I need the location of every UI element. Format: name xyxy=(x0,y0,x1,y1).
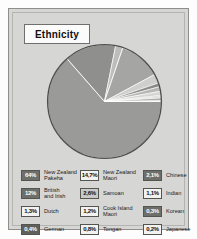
legend-item: 1,1%Indian xyxy=(143,185,197,201)
legend-value-swatch: 0,8% xyxy=(80,224,99,235)
legend-item: 0,4%German xyxy=(21,221,79,237)
legend-item-label: Korean xyxy=(166,208,184,214)
legend-item-label: Indian xyxy=(166,190,181,196)
legend-item-label: German xyxy=(44,226,64,232)
legend-item-label: New Zealand Maori xyxy=(103,169,136,182)
legend-item: 2,6%Samoan xyxy=(80,185,142,201)
legend-value-swatch: 2,1% xyxy=(143,170,162,181)
legend-value-swatch: 1,3% xyxy=(21,206,40,217)
pie-chart-svg xyxy=(42,39,167,164)
legend-value-swatch: 0,4% xyxy=(21,224,40,235)
legend-item: 12%British and Irish xyxy=(21,185,79,201)
legend-column-1: 64%New Zealand Pakeha12%British and Iris… xyxy=(21,167,79,239)
legend-item-label: Tongan xyxy=(103,226,121,232)
legend-item: 64%New Zealand Pakeha xyxy=(21,167,79,183)
pie-chart xyxy=(42,39,167,164)
legend-item: 1,3%Dutch xyxy=(21,203,79,219)
legend-column-2: 14,7%New Zealand Maori2,6%Samoan1,2%Cook… xyxy=(80,167,142,239)
legend-item-label: New Zealand Pakeha xyxy=(44,169,77,182)
legend-item-label: Chinese xyxy=(166,172,187,178)
legend-value-swatch: 12% xyxy=(21,188,40,199)
legend-value-swatch: 64% xyxy=(21,170,40,181)
legend-item-label: Japanese xyxy=(166,226,190,232)
legend-item: 0,2%Japanese xyxy=(143,221,197,237)
chart-panel: Ethnicity 64%New Zealand Pakeha12%Britis… xyxy=(8,8,189,230)
legend-value-swatch: 1,1% xyxy=(143,188,162,199)
page-title-label: Ethnicity xyxy=(35,29,79,40)
legend-value-swatch: 0,2% xyxy=(143,224,162,235)
legend-item-label: British and Irish xyxy=(44,187,65,200)
legend-value-swatch: 0,3% xyxy=(143,206,162,217)
legend-item-label: Cook Island Maori xyxy=(103,205,133,218)
legend-value-swatch: 1,2% xyxy=(80,206,99,217)
legend-column-3: 2,1%Chinese1,1%Indian0,3%Korean0,2%Japan… xyxy=(143,167,197,239)
legend-item-label: Samoan xyxy=(103,190,124,196)
chart-screenshot: Ethnicity 64%New Zealand Pakeha12%Britis… xyxy=(0,0,197,239)
legend-item: 2,1%Chinese xyxy=(143,167,197,183)
legend-item: 0,3%Korean xyxy=(143,203,197,219)
legend-item: 1,2%Cook Island Maori xyxy=(80,203,142,219)
legend-value-swatch: 2,6% xyxy=(80,188,99,199)
legend-item: 14,7%New Zealand Maori xyxy=(80,167,142,183)
legend-item: 0,8%Tongan xyxy=(80,221,142,237)
legend-item-label: Dutch xyxy=(44,208,59,214)
legend-value-swatch: 14,7% xyxy=(80,170,99,181)
legend: 64%New Zealand Pakeha12%British and Iris… xyxy=(21,167,176,219)
